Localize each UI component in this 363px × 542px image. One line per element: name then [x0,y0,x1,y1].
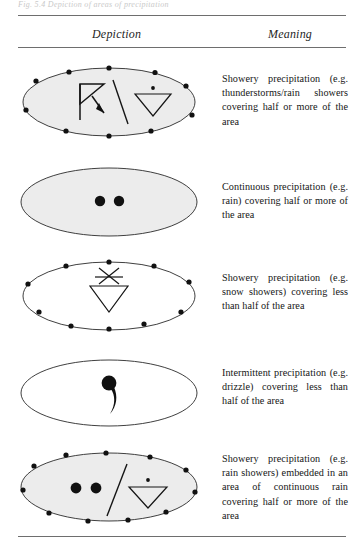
snow-asterisk-icon [95,268,123,284]
area-ellipse [21,360,197,426]
meaning-cell: Showery precipitation (e.g. thunderstorm… [222,72,348,129]
rule-under-header [18,47,346,48]
depiction-cell [14,58,204,154]
table-row: Showery precipitation (e.g. snow showers… [0,250,363,346]
meaning-cell: Continuous precipitation (e.g. rain) cov… [222,180,348,223]
table-row: Intermittent precipitation (e.g. drizzle… [0,348,363,440]
diagram-plain-snow-shower [14,250,204,346]
drizzle-comma-icon [102,376,117,414]
diagram-shaded-continuous-rain [14,156,204,248]
precipitation-depiction-figure: Fig. 5.4 Depiction of areas of precipita… [0,0,363,542]
area-ellipse [23,262,195,330]
diagram-plain-drizzle [14,348,204,440]
meaning-cell: Showery precipitation (e.g. snow showers… [222,271,348,314]
meaning-cell: Showery precipitation (e.g. rain showers… [222,452,348,523]
table-row: Showery precipitation (e.g. rain showers… [0,442,363,536]
table-row: Showery precipitation (e.g. thunderstorm… [0,58,363,154]
column-header-meaning: Meaning [268,27,312,42]
column-header-depiction: Depiction [92,27,141,42]
diagram-shaded-embedded-shower [14,442,204,536]
depiction-cell [14,250,204,346]
diagram-shaded-shower-thunderstorm [14,58,204,154]
depiction-cell [14,156,204,248]
meaning-cell: Intermittent precipitation (e.g. drizzle… [222,366,348,409]
area-ellipse [23,68,195,136]
area-ellipse [21,168,197,236]
shower-triangle-icon [90,286,128,312]
depiction-cell [14,348,204,440]
rule-top [18,15,346,16]
top-caption-fragment: Fig. 5.4 Depiction of areas of precipita… [18,0,348,9]
rule-bottom [18,536,346,537]
table-row: Continuous precipitation (e.g. rain) cov… [0,156,363,248]
snow-shower-icon [90,268,128,312]
depiction-cell [14,442,204,536]
